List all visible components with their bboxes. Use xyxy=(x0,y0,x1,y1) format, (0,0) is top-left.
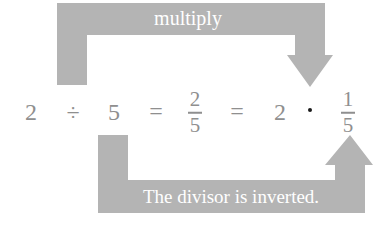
fraction-two-fifths: 2 5 xyxy=(188,89,202,136)
divisor: 5 xyxy=(108,100,120,124)
multiply-dot xyxy=(308,108,312,112)
reciprocal-denominator: 5 xyxy=(343,114,354,135)
divisor-inverted-label: The divisor is inverted. xyxy=(143,186,319,208)
fraction-numerator: 2 xyxy=(190,89,201,110)
equals-sign-1: = xyxy=(149,99,163,123)
fraction-reciprocal: 1 5 xyxy=(341,89,355,136)
reciprocal-numerator: 1 xyxy=(343,89,354,110)
divide-symbol: ÷ xyxy=(66,100,79,124)
dividend: 2 xyxy=(25,100,37,124)
equals-sign-2: = xyxy=(230,99,244,123)
division-as-multiplication-diagram: multiply The divisor is inverted. 2 ÷ 5 … xyxy=(0,0,389,227)
fraction-denominator: 5 xyxy=(190,114,201,135)
factor: 2 xyxy=(274,100,286,124)
multiply-label: multiply xyxy=(154,7,222,30)
